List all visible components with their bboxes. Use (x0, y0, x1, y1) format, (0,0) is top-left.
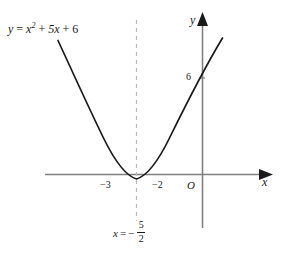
x-tick-label-neg2: −2 (152, 180, 163, 190)
annotation-fraction: 5 2 (137, 220, 145, 244)
equation-equals: = (16, 22, 23, 36)
y-axis-label: y (190, 14, 195, 26)
axis-of-symmetry-annotation: x = − 5 2 (113, 221, 145, 245)
x-tick-label-neg3: −3 (100, 180, 111, 190)
equation-plus-2: + (63, 22, 70, 36)
y-axis-arrow-icon (197, 12, 208, 26)
equation-label: y = x2 + 5x + 6 (8, 23, 78, 35)
origin-label: O (187, 180, 195, 191)
annotation-lhs: x (113, 228, 118, 239)
fraction-numerator: 5 (138, 220, 145, 231)
x-axis-label: x (262, 176, 267, 188)
graph-figure: y = x2 + 5x + 6 x y O −3 −2 6 x = − 5 2 (0, 0, 284, 257)
equation-plus-1: + (38, 22, 45, 36)
fraction-denominator: 2 (138, 234, 145, 245)
equation-lhs: y (8, 22, 13, 36)
y-tick-label-6: 6 (186, 72, 191, 82)
equation-term2: 5x (48, 22, 59, 36)
annotation-minus-sign: − (128, 228, 134, 239)
equation-term3: 6 (72, 22, 78, 36)
equation-term1-exponent: 2 (31, 21, 35, 30)
parabola-curve (58, 38, 223, 179)
annotation-equals: = (120, 228, 126, 239)
